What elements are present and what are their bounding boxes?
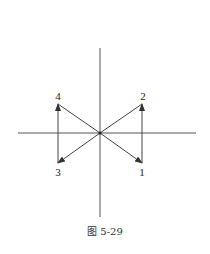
vector-4-to-origin	[58, 104, 100, 133]
point-label-1: 1	[139, 166, 145, 178]
point-label-3: 3	[55, 166, 61, 178]
vector-diagram: 1234	[0, 0, 210, 254]
vector-2-to-origin	[100, 104, 142, 133]
vector-origin-to-1	[100, 133, 142, 163]
point-label-2: 2	[140, 90, 146, 102]
vector-origin-to-3	[58, 133, 100, 163]
figure-caption: 图 5-29	[0, 223, 210, 238]
origin-point	[99, 132, 102, 135]
point-label-4: 4	[55, 90, 61, 102]
